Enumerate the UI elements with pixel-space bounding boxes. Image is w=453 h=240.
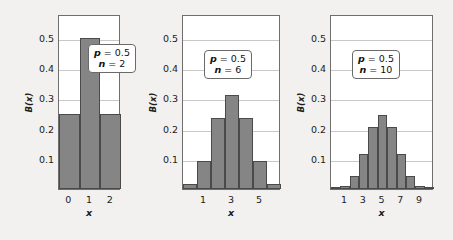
panel-n10-gridline-0.3 [331, 100, 432, 101]
panel-n10-gridline-0.5 [331, 40, 432, 41]
panel-n10-bar [425, 187, 434, 189]
panel-n6-param-n-value: = 6 [224, 64, 241, 75]
panel-n6-yaxis-title: B(x) [149, 89, 158, 115]
panel-n2-param-p-value: = 0.5 [104, 47, 130, 58]
panel-n2-ytick-label: 0.1 [24, 155, 54, 165]
panel-n10-bar [331, 187, 340, 189]
panel-n10-param-p-row: p = 0.5 [358, 53, 394, 64]
panel-n2-bar [100, 114, 121, 189]
panel-n2-param-p-row: p = 0.5 [94, 47, 130, 58]
panel-n6-plot-area [182, 15, 280, 190]
binomial-distribution-figure: 0.10.20.30.40.5012xB(x)p = 0.5n = 20.10.… [0, 0, 453, 240]
panel-n2-xtick-label: 2 [95, 195, 125, 205]
panel-n6-param-p-symbol: p [210, 53, 217, 64]
panel-n2-param-n-symbol: n [99, 58, 106, 69]
panel-n6-ytick-label: 0.2 [148, 125, 178, 135]
panel-n10-param-p-symbol: p [358, 53, 365, 64]
panel-n10-bar [368, 127, 377, 189]
panel-n2-xaxis-title: x [69, 208, 109, 218]
panel-n10-bar [387, 127, 396, 189]
panel-n10-ytick-label: 0.2 [296, 125, 326, 135]
panel-n2-plot-area [58, 15, 120, 190]
panel-n2-ytick-label: 0.2 [24, 125, 54, 135]
panel-n6-xtick-label: 3 [216, 195, 246, 205]
panel-n10-bar [397, 154, 406, 189]
panel-n10-param-n-row: n = 10 [358, 64, 394, 75]
panel-n10-param-p-value: = 0.5 [368, 53, 394, 64]
panel-n6-bar [225, 95, 239, 189]
panel-n10-ytick-label: 0.4 [296, 64, 326, 74]
panel-n2-param-n-row: n = 2 [94, 58, 130, 69]
panel-n6-bar [197, 161, 211, 189]
panel-n2-ytick-label: 0.5 [24, 34, 54, 44]
panel-n10-ytick-label: 0.5 [296, 34, 326, 44]
panel-n6-bar [211, 118, 225, 189]
panel-n10-bar [406, 176, 415, 189]
panel-n6-param-p-row: p = 0.5 [210, 53, 246, 64]
panel-n6-param-n-symbol: n [215, 64, 222, 75]
panel-n2-param-n-value: = 2 [108, 58, 125, 69]
panel-n6-xtick-label: 5 [244, 195, 274, 205]
panel-n6-bar [239, 118, 253, 189]
panel-n10-bar [340, 186, 349, 189]
panel-n10-xtick-label: 9 [404, 195, 434, 205]
panel-n2-param-p-symbol: p [94, 47, 101, 58]
panel-n10-bar [415, 186, 424, 189]
panel-n2-yaxis-title: B(x) [25, 89, 34, 115]
panel-n10-plot-area [330, 15, 433, 190]
panel-n10-bar [378, 115, 387, 189]
panel-n6-bar [183, 184, 197, 189]
panel-n10-bar [359, 154, 368, 189]
panel-n10-param-n-value: = 10 [369, 64, 392, 75]
panel-n2-parameter-box: p = 0.5n = 2 [88, 44, 136, 73]
panel-n6-bar [267, 184, 281, 189]
panel-n6-param-p-value: = 0.5 [220, 53, 246, 64]
panel-n6-bar [253, 161, 267, 189]
panel-n6-ytick-label: 0.5 [148, 34, 178, 44]
panel-n2-bar [59, 114, 80, 189]
panel-n6-xtick-label: 1 [188, 195, 218, 205]
panel-n10-yaxis-title: B(x) [297, 89, 306, 115]
panel-n10-xaxis-title: x [362, 208, 402, 218]
panel-n6-gridline-0.5 [183, 40, 279, 41]
panel-n6-xaxis-title: x [211, 208, 251, 218]
panel-n10-param-n-symbol: n [360, 64, 367, 75]
panel-n6-param-n-row: n = 6 [210, 64, 246, 75]
panel-n2-ytick-label: 0.4 [24, 64, 54, 74]
panel-n6-ytick-label: 0.1 [148, 155, 178, 165]
panel-n10-bar [350, 176, 359, 189]
panel-n6-ytick-label: 0.4 [148, 64, 178, 74]
panel-n6-parameter-box: p = 0.5n = 6 [204, 50, 252, 79]
panel-n10-ytick-label: 0.1 [296, 155, 326, 165]
panel-n10-parameter-box: p = 0.5n = 10 [352, 50, 400, 79]
